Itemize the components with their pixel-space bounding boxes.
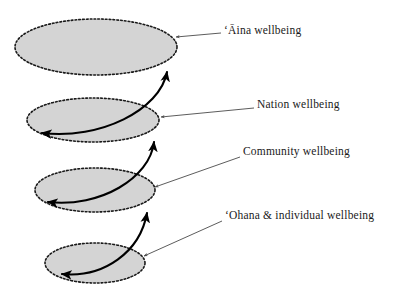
ellipse-nation xyxy=(27,98,159,142)
pointer-community xyxy=(155,157,240,187)
label-ohana-individual-wellbeing: ʻOhana & individual wellbeing xyxy=(225,210,374,222)
label-community-wellbeing: Community wellbeing xyxy=(243,146,350,158)
pointer-group xyxy=(144,33,254,256)
wellbeing-spiral-diagram: ʻĀina wellbeing Nation wellbeing Communi… xyxy=(0,0,405,299)
pointer-ohana xyxy=(144,221,222,256)
ellipse-aina xyxy=(15,19,177,75)
pointer-nation xyxy=(161,108,254,117)
label-nation-wellbeing: Nation wellbeing xyxy=(257,99,340,111)
label-aina-wellbeing: ʻĀina wellbeing xyxy=(224,25,301,37)
pointer-aina xyxy=(176,33,221,37)
